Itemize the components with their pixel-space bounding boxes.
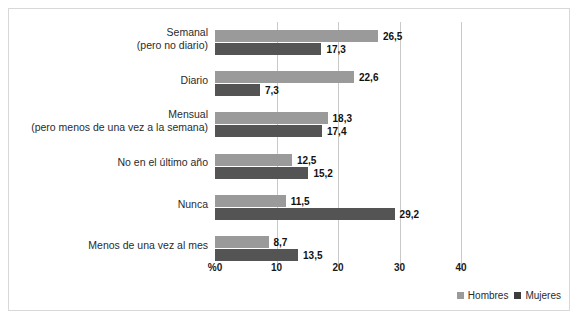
bar-mujeres-5 [215, 249, 298, 261]
bar-value-mujeres-5: 13,5 [303, 250, 322, 262]
chart-legend: HombresMujeres [457, 290, 561, 301]
category-axis-labels: Semanal(pero no diario)DiarioMensual(per… [0, 22, 208, 270]
axis-tick-label-30: 30 [394, 262, 405, 273]
category-label-line: Nunca [178, 198, 208, 211]
bar-value-hombres-1: 22,6 [359, 72, 378, 84]
legend-item-hombres[interactable]: Hombres [457, 290, 509, 301]
category-label-0: Semanal(pero no diario) [137, 26, 208, 52]
bar-value-mujeres-4: 29,2 [400, 209, 419, 221]
bar-hombres-1 [215, 71, 354, 83]
bar-value-hombres-0: 26,5 [383, 31, 402, 43]
category-label-2: Mensual(pero menos de una vez a la seman… [31, 108, 208, 134]
axis-tick-label-10: 10 [271, 262, 282, 273]
category-label-line: Mensual [31, 108, 208, 121]
bar-mujeres-0 [215, 43, 321, 55]
bar-hombres-5 [215, 236, 269, 248]
plot-area: 26,522,618,312,511,58,717,37,317,415,229… [215, 22, 559, 270]
bar-hombres-3 [215, 154, 292, 166]
legend-swatch-icon [514, 292, 521, 299]
axis-tick-label-0: %0 [208, 262, 222, 273]
bar-value-hombres-5: 8,7 [274, 237, 288, 249]
category-label-3: No en el último año [118, 156, 208, 169]
chart-container: Semanal(pero no diario)DiarioMensual(per… [0, 0, 579, 320]
category-label-4: Nunca [178, 198, 208, 211]
bar-mujeres-4 [215, 208, 395, 220]
gridline-20 [338, 22, 339, 270]
axis-tick-label-20: 20 [332, 262, 343, 273]
category-label-line: No en el último año [118, 156, 208, 169]
axis-tick-label-40: 40 [455, 262, 466, 273]
legend-item-mujeres[interactable]: Mujeres [514, 290, 561, 301]
bar-hombres-4 [215, 195, 286, 207]
category-label-line: (pero menos de una vez a la semana) [31, 121, 208, 134]
bar-hombres-0 [215, 30, 378, 42]
bar-value-mujeres-1: 7,3 [265, 85, 279, 97]
bar-mujeres-3 [215, 167, 308, 179]
bar-value-hombres-3: 12,5 [297, 155, 316, 167]
gridline-10 [277, 22, 278, 270]
category-label-line: Menos de una vez al mes [88, 239, 208, 252]
legend-label: Mujeres [525, 290, 561, 301]
bar-value-mujeres-3: 15,2 [313, 168, 332, 180]
legend-label: Hombres [468, 290, 509, 301]
bar-value-mujeres-0: 17,3 [326, 44, 345, 56]
bar-value-hombres-4: 11,5 [291, 196, 310, 208]
category-label-line: (pero no diario) [137, 39, 208, 52]
gridline-30 [400, 22, 401, 270]
legend-swatch-icon [457, 292, 464, 299]
bar-mujeres-1 [215, 84, 260, 96]
bar-mujeres-2 [215, 125, 322, 137]
bar-value-hombres-2: 18,3 [333, 113, 352, 125]
gridline-40 [461, 22, 462, 270]
category-label-5: Menos de una vez al mes [88, 239, 208, 252]
bar-hombres-2 [215, 112, 328, 124]
category-label-1: Diario [181, 74, 208, 87]
category-label-line: Diario [181, 74, 208, 87]
bar-value-mujeres-2: 17,4 [327, 126, 346, 138]
category-label-line: Semanal [137, 26, 208, 39]
